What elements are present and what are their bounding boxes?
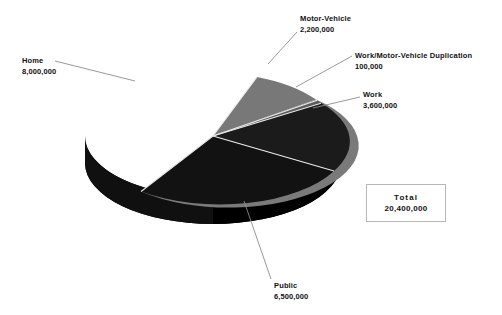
- callout-motor-vehicle-value: 2,200,000: [300, 25, 351, 36]
- callout-motor-vehicle: Motor-Vehicle 2,200,000: [300, 14, 351, 35]
- total-label: Total: [394, 193, 418, 202]
- callout-public-category: Public: [274, 281, 308, 292]
- callout-work: Work 3,600,000: [363, 90, 397, 111]
- total-value: 20,400,000: [384, 204, 427, 213]
- pie-chart-figure: Home 8,000,000 Motor-Vehicle 2,200,000 W…: [0, 0, 502, 315]
- callout-duplication-category: Work/Motor-Vehicle Duplication: [355, 51, 472, 62]
- callout-public: Public 6,500,000: [274, 281, 308, 302]
- pie-chart-graphic: [0, 0, 502, 315]
- callout-duplication-value: 100,000: [355, 62, 472, 73]
- leader-line-duplication: [296, 56, 352, 87]
- leader-line-home: [55, 61, 135, 81]
- callout-home: Home 8,000,000: [22, 56, 56, 77]
- callout-duplication: Work/Motor-Vehicle Duplication 100,000: [355, 51, 472, 72]
- leader-line-motor-vehicle: [268, 32, 297, 64]
- callout-work-value: 3,600,000: [363, 101, 397, 112]
- callout-motor-vehicle-category: Motor-Vehicle: [300, 14, 351, 25]
- callout-public-value: 6,500,000: [274, 292, 308, 303]
- callout-home-category: Home: [22, 56, 56, 67]
- total-box: Total 20,400,000: [366, 184, 446, 222]
- callout-home-value: 8,000,000: [22, 67, 56, 78]
- callout-work-category: Work: [363, 90, 397, 101]
